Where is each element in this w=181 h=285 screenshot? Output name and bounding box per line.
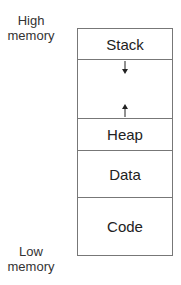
low-memory-line1: Low — [2, 244, 60, 259]
high-memory-label: High memory — [2, 13, 60, 43]
high-memory-line2: memory — [2, 28, 60, 43]
segment-stack: Stack — [77, 28, 173, 59]
segment-data: Data — [77, 150, 173, 197]
low-memory-line2: memory — [2, 259, 60, 274]
segment-code: Code — [77, 197, 173, 256]
high-memory-line1: High — [2, 13, 60, 28]
low-memory-label: Low memory — [2, 244, 60, 274]
segment-heap: Heap — [77, 118, 173, 150]
